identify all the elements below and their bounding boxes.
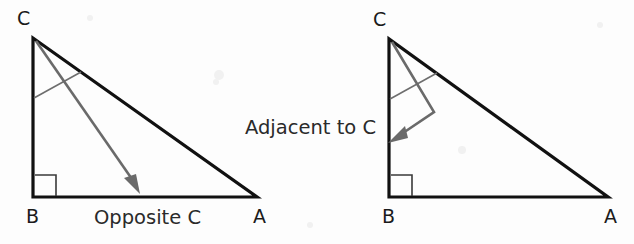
opposite-side-label: Opposite C [94, 206, 201, 229]
right-angle-marker-right [391, 175, 412, 196]
figure-canvas: C B A Opposite C Adjacent to C C B A [0, 0, 634, 244]
adjacent-side-label: Adjacent to C [245, 116, 376, 139]
trigonometry-figure: C B A Opposite C Adjacent to C C B A [0, 0, 634, 244]
opposite-diagram: C B A Opposite C [17, 7, 266, 229]
vertex-label-b-left: B [26, 205, 39, 227]
adjacent-pointer-arrowhead [388, 126, 408, 143]
vertex-label-c-left: C [17, 7, 30, 29]
vertex-label-c-right: C [373, 8, 386, 30]
triangle-outline-left [33, 38, 257, 197]
triangle-outline-right [389, 39, 608, 197]
adjacent-diagram: C B A [373, 8, 617, 227]
vertex-label-b-right: B [382, 205, 395, 227]
opposite-pointer-arrowhead [124, 174, 140, 194]
vertex-label-a-right: A [604, 205, 617, 227]
vertex-label-a-left: A [253, 205, 266, 227]
opposite-pointer-line [36, 41, 134, 182]
right-angle-marker-left [35, 175, 56, 196]
